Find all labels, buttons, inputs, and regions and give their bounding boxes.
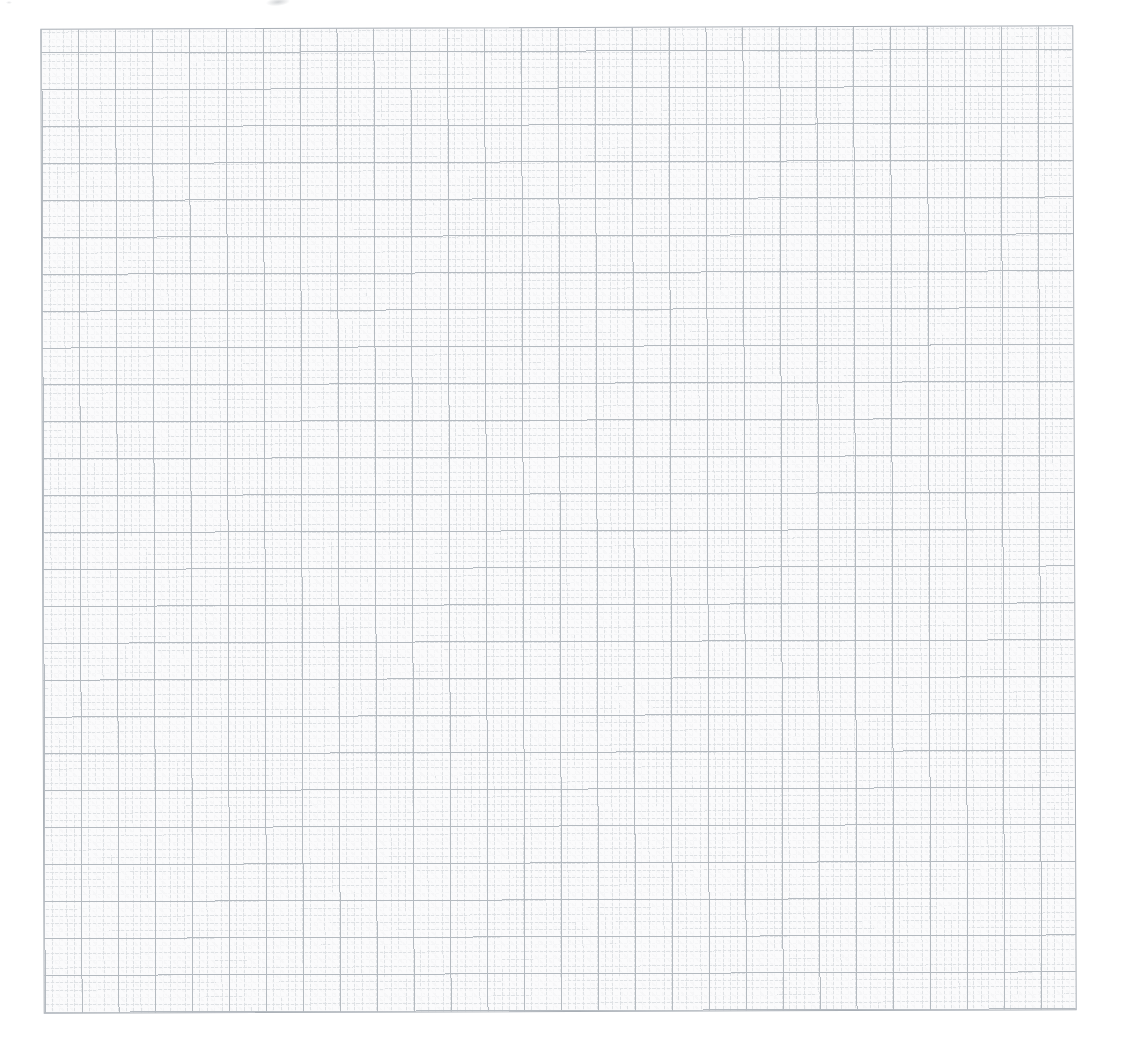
scanned-page: [0, 0, 1125, 1062]
scan-dot-artifact: [6, 1, 12, 4]
scan-smudge-artifact: [266, 0, 291, 7]
graph-paper-sheet: [40, 25, 1076, 1014]
